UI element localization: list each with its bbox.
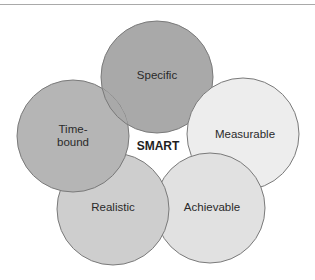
label-measurable: Measurable: [215, 128, 275, 140]
label-specific: Specific: [137, 69, 178, 81]
label-realistic: Realistic: [91, 201, 135, 213]
center-label-smart: SMART: [137, 139, 180, 153]
label-timebound-line1: Time-: [59, 123, 88, 135]
label-timebound-line2: bound: [57, 136, 89, 148]
smart-diagram: Specific Measurable Achievable Realistic…: [0, 0, 315, 280]
label-achievable: Achievable: [184, 201, 240, 213]
